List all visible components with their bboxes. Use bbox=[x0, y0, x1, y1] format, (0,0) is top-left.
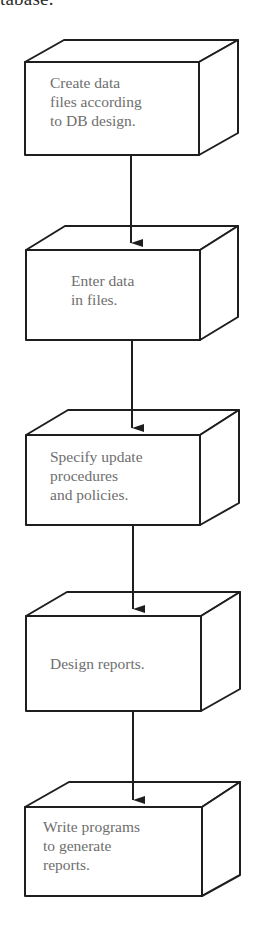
step-5-label: Write programs to generate reports. bbox=[43, 817, 140, 874]
step-3-label: Specify update procedures and policies. bbox=[50, 447, 143, 504]
step-2-label: Enter data in files. bbox=[71, 271, 134, 309]
step-1-label: Create data files according to DB design… bbox=[50, 73, 142, 130]
process-box-4 bbox=[26, 592, 240, 711]
step-4-label: Design reports. bbox=[50, 654, 145, 673]
